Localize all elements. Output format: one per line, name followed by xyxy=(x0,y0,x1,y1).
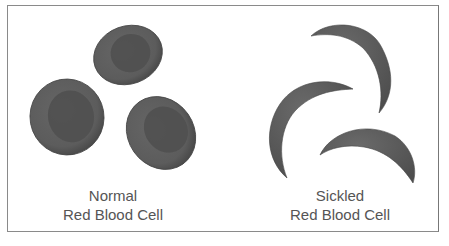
sickled-caption-line1: Sickled xyxy=(250,186,430,205)
normal-cell-right xyxy=(112,83,210,183)
sickled-caption-line2: Red Blood Cell xyxy=(250,205,430,224)
sickled-cells xyxy=(269,25,414,183)
normal-cell-caption: Normal Red Blood Cell xyxy=(23,186,203,224)
sickle-cell-bottom xyxy=(320,129,415,183)
normal-caption-line2: Red Blood Cell xyxy=(23,205,203,224)
sickle-cell-left xyxy=(269,82,353,178)
normal-cell-top xyxy=(85,16,171,94)
normal-cell-left xyxy=(24,73,110,161)
normal-caption-line1: Normal xyxy=(23,186,203,205)
sickled-cell-caption: Sickled Red Blood Cell xyxy=(250,186,430,224)
sickle-cell-top xyxy=(311,25,391,113)
normal-cells xyxy=(24,16,210,183)
